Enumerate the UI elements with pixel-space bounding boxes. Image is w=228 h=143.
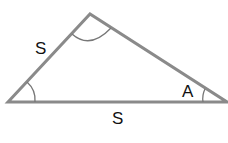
left-angle-arc (27, 82, 35, 102)
left-side-label: S (35, 39, 46, 58)
top-angle-arc (72, 28, 111, 41)
bottom-side-label: S (112, 109, 123, 128)
angle-a-label: A (182, 82, 194, 101)
triangle-outline (8, 14, 227, 102)
right-angle-arc (203, 89, 205, 102)
triangle-diagram: S S A (0, 0, 228, 143)
